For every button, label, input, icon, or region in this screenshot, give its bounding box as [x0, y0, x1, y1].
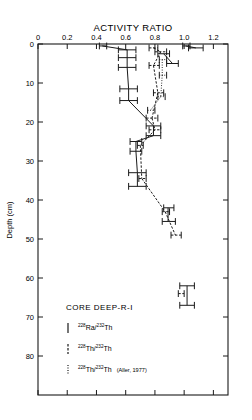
series-connector: [136, 136, 154, 142]
bottom-axis-ticks: [38, 390, 213, 395]
y-tick-label: 20: [26, 118, 34, 127]
legend-row: 228Th/232Th(Aller, 1977): [68, 365, 147, 375]
chart-title: ACTIVITY RATIO: [93, 22, 172, 33]
plot-frame: [38, 44, 228, 395]
x-tick-label: 0.8: [150, 33, 160, 42]
y-tick-label: 10: [26, 79, 34, 88]
chart-figure: ACTIVITY RATIO Depth (cm) 00.20.40.60.81…: [0, 0, 252, 420]
series-solid: [99, 43, 203, 309]
legend-row: 228Ra/232Th: [68, 323, 113, 333]
legend: CORE DEEP-R-I 228Ra/232Th228Th/232Th228T…: [66, 303, 147, 375]
x-tick-label: 0.2: [62, 33, 72, 42]
y-tick-label: 80: [26, 352, 34, 361]
legend-label: 228Th/232Th(Aller, 1977): [78, 365, 147, 373]
x-tick-label: 0: [36, 33, 40, 42]
series-connector: [165, 212, 175, 235]
y-axis-ticks: 01020304050607080: [26, 40, 43, 361]
series-connector: [164, 54, 173, 64]
x-tick-label: 0.6: [120, 33, 130, 42]
series-connector: [102, 46, 127, 50]
y-tick-label: 70: [26, 313, 34, 322]
y-tick-label: 40: [26, 196, 34, 205]
x-tick-label: 1.2: [208, 33, 218, 42]
series-dashed: [137, 45, 184, 298]
y-tick-label: 0: [30, 40, 34, 49]
series-connector: [153, 65, 157, 92]
series-connector: [161, 75, 162, 96]
legend-core-label: CORE DEEP-R-I: [66, 303, 133, 312]
activity-ratio-depth-profile: ACTIVITY RATIO Depth (cm) 00.20.40.60.81…: [0, 0, 252, 420]
x-tick-label: 1.0: [179, 33, 189, 42]
data-series-layer: [99, 43, 203, 309]
series-connector: [127, 67, 128, 88]
y-axis-label: Depth (cm): [5, 201, 14, 239]
series-dotted: [148, 56, 167, 113]
series-connector: [129, 101, 154, 126]
legend-label: 228Th/232Th: [78, 344, 112, 352]
x-tick-label: 0.4: [91, 33, 101, 42]
series-connector: [142, 179, 165, 212]
y-tick-label: 30: [26, 157, 34, 166]
y-tick-label: 50: [26, 235, 34, 244]
series-connector: [136, 151, 137, 172]
legend-label: 228Ra/232Th: [78, 323, 113, 331]
legend-row: 228Th/232Th: [68, 344, 112, 354]
y-tick-label: 60: [26, 274, 34, 283]
legend-rows: 228Ra/232Th228Th/232Th228Th/232Th(Aller,…: [68, 323, 147, 375]
series-connector: [152, 93, 158, 118]
series-connector: [151, 97, 161, 111]
right-axis-ticks: [223, 44, 228, 356]
